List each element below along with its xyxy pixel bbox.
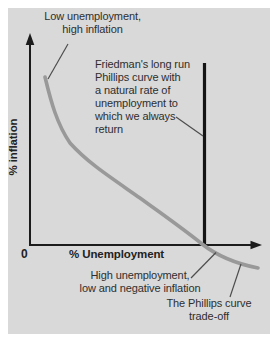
annotation-phillips-tradeoff: The Phillips curve trade-off [149, 297, 269, 323]
origin-label: 0 [21, 248, 28, 261]
pointer-line-low-unemployment [48, 44, 68, 79]
x-axis-arrowhead [251, 241, 263, 250]
pointer-line-tradeoff [230, 264, 241, 297]
phillips-curve-figure: Low unemployment, high inflation Friedma… [0, 0, 279, 345]
y-axis-label: % inflation [7, 111, 21, 183]
x-axis-label: % Unemployment [69, 248, 164, 261]
annotation-high-unemployment: High unemployment, low and negative infl… [60, 269, 220, 295]
annotation-friedman-long-run: Friedman's long run Phillips curve with … [95, 58, 213, 136]
annotation-low-unemployment: Low unemployment, high inflation [30, 10, 155, 36]
